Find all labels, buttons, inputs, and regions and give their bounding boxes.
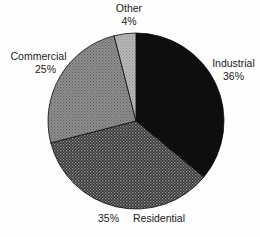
slice-label-commercial: Commercial 25% xyxy=(2,50,75,75)
pie-chart-figure: Other 4% Commercial 25% Industrial 36% 3… xyxy=(0,0,260,237)
slice-value-industrial: 36% xyxy=(207,70,260,83)
slice-label-industrial: Industrial 36% xyxy=(207,57,260,82)
slice-label-residential: 35% Residential xyxy=(98,212,185,225)
slice-value-other: 4% xyxy=(104,15,154,28)
slice-label-other: Other 4% xyxy=(104,2,154,27)
slice-name-residential: Residential xyxy=(133,212,185,225)
slice-value-commercial: 25% xyxy=(9,63,82,76)
slice-name-commercial: Commercial xyxy=(2,50,75,63)
slice-name-industrial: Industrial xyxy=(207,57,260,70)
pie-chart xyxy=(0,0,260,237)
slice-name-other: Other xyxy=(104,2,154,15)
slice-value-residential: 35% xyxy=(98,212,119,225)
